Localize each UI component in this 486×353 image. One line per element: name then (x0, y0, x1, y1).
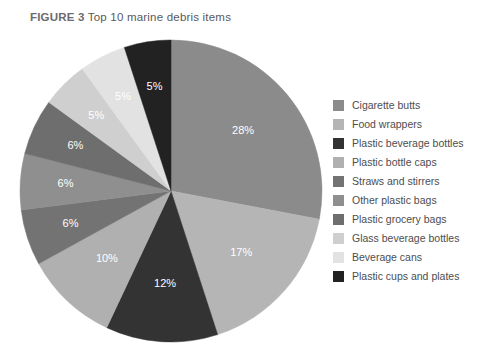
figure-title-text: Top 10 marine debris items (88, 11, 231, 23)
figure-number: FIGURE 3 (30, 11, 85, 23)
legend-swatch-icon (333, 233, 344, 244)
legend-item-label: Other plastic bags (352, 195, 437, 206)
pie-slice-label: 6% (58, 177, 74, 189)
legend-item-label: Plastic beverage bottles (352, 138, 463, 149)
legend-item: Plastic beverage bottles (333, 134, 483, 153)
legend-item: Food wrappers (333, 115, 483, 134)
legend-swatch-icon (333, 176, 344, 187)
pie-slice-group (20, 40, 322, 342)
legend-item: Glass beverage bottles (333, 229, 483, 248)
legend-swatch-icon (333, 271, 344, 282)
legend-item: Plastic bottle caps (333, 153, 483, 172)
pie-slice-label: 12% (154, 277, 176, 289)
pie-slice-label: 5% (147, 80, 163, 92)
legend-item: Beverage cans (333, 248, 483, 267)
legend-swatch-icon (333, 195, 344, 206)
pie-slice-label: 5% (115, 90, 131, 102)
legend-item: Plastic cups and plates (333, 267, 483, 286)
legend-item: Cigarette butts (333, 96, 483, 115)
legend-swatch-icon (333, 214, 344, 225)
legend-item-label: Plastic bottle caps (352, 157, 437, 168)
pie-slice-label: 5% (88, 109, 104, 121)
pie-slice-label: 6% (63, 217, 79, 229)
legend-item: Other plastic bags (333, 191, 483, 210)
pie-chart: 28%17%12%10%6%6%6%5%5%5% (19, 38, 323, 346)
legend-item-label: Food wrappers (352, 119, 422, 130)
pie-slice-label: 6% (67, 139, 83, 151)
legend-item-label: Plastic cups and plates (352, 271, 459, 282)
legend-item: Straws and stirrers (333, 172, 483, 191)
pie-slice-label: 17% (230, 246, 252, 258)
figure-title: FIGURE 3 Top 10 marine debris items (30, 11, 231, 23)
legend-swatch-icon (333, 157, 344, 168)
figure-container: FIGURE 3 Top 10 marine debris items 28%1… (0, 0, 486, 353)
legend-item-label: Plastic grocery bags (352, 214, 447, 225)
legend-item: Plastic grocery bags (333, 210, 483, 229)
pie-chart-svg: 28%17%12%10%6%6%6%5%5%5% (19, 38, 323, 346)
legend-item-label: Straws and stirrers (352, 176, 440, 187)
legend-swatch-icon (333, 100, 344, 111)
legend-item-label: Beverage cans (352, 252, 422, 263)
legend-swatch-icon (333, 138, 344, 149)
legend-swatch-icon (333, 119, 344, 130)
legend-swatch-icon (333, 252, 344, 263)
legend-item-label: Cigarette butts (352, 100, 420, 111)
pie-slice-label: 10% (96, 252, 118, 264)
pie-slice-label: 28% (232, 124, 254, 136)
legend: Cigarette buttsFood wrappersPlastic beve… (333, 96, 483, 286)
legend-item-label: Glass beverage bottles (352, 233, 459, 244)
